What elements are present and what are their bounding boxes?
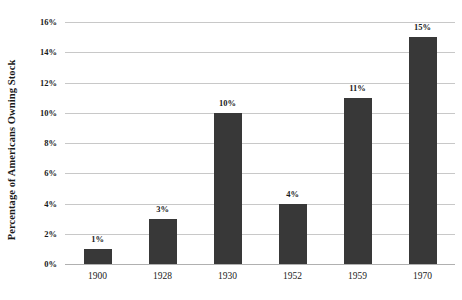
plot-area: 0%2%4%6%8%10%12%14%16% 1%19003%192810%19… xyxy=(65,22,455,264)
y-axis-title-label: Percentage of Americans Owning Stock xyxy=(6,60,17,241)
gridline: 0% xyxy=(65,264,455,265)
bar[interactable] xyxy=(344,98,372,264)
x-axis-category-label: 1959 xyxy=(348,271,367,281)
x-axis-category-label: 1900 xyxy=(88,271,107,281)
y-axis-tick-label: 0% xyxy=(44,259,57,269)
y-axis-tick-label: 16% xyxy=(40,17,57,27)
bar[interactable] xyxy=(214,113,242,264)
bar[interactable] xyxy=(279,204,307,265)
bar-value-label: 10% xyxy=(219,98,236,108)
bars-layer: 1%19003%192810%19304%195211%195915%1970 xyxy=(65,22,455,264)
bar-chart: Percentage of Americans Owning Stock 0%2… xyxy=(0,0,462,300)
bar-group[interactable]: 4%1952 xyxy=(260,22,325,264)
bar[interactable] xyxy=(149,219,177,264)
y-axis-tick-label: 14% xyxy=(40,47,57,57)
bar-group[interactable]: 3%1928 xyxy=(130,22,195,264)
y-axis-tick-label: 2% xyxy=(44,229,57,239)
x-axis-category-label: 1928 xyxy=(153,271,172,281)
y-axis-tick-label: 10% xyxy=(40,108,57,118)
bar-value-label: 11% xyxy=(349,83,366,93)
bar-group[interactable]: 15%1970 xyxy=(390,22,455,264)
bar-group[interactable]: 10%1930 xyxy=(195,22,260,264)
y-axis-tick-label: 6% xyxy=(44,168,57,178)
y-axis-title: Percentage of Americans Owning Stock xyxy=(0,0,34,300)
bar-value-label: 3% xyxy=(156,204,169,214)
x-axis-category-label: 1930 xyxy=(218,271,237,281)
bar-group[interactable]: 1%1900 xyxy=(65,22,130,264)
y-axis-tick-label: 12% xyxy=(40,78,57,88)
bar-value-label: 4% xyxy=(286,189,299,199)
x-axis-category-label: 1970 xyxy=(413,271,432,281)
x-axis-category-label: 1952 xyxy=(283,271,302,281)
bar[interactable] xyxy=(409,37,437,264)
bar-value-label: 15% xyxy=(414,22,431,32)
bar-group[interactable]: 11%1959 xyxy=(325,22,390,264)
y-axis-tick-label: 4% xyxy=(44,199,57,209)
bar[interactable] xyxy=(84,249,112,264)
y-axis-tick-label: 8% xyxy=(44,138,57,148)
bar-value-label: 1% xyxy=(91,234,104,244)
